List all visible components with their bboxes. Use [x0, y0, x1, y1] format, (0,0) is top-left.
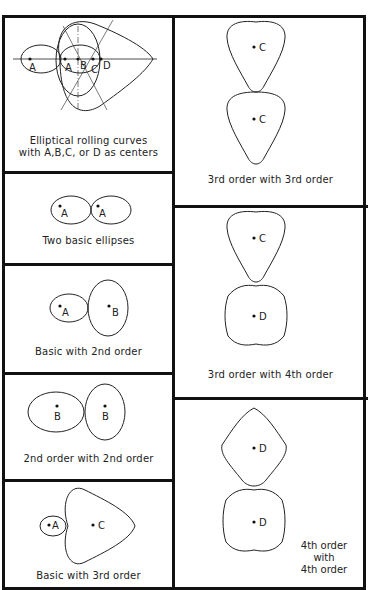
panel-4th-4th: D D 4th order with 4th order — [176, 400, 365, 586]
point-label: C — [259, 114, 266, 125]
two-basic-drawing: A A — [5, 174, 172, 263]
point-label: A — [52, 520, 59, 531]
point-label: B — [102, 411, 109, 422]
point-label: D — [259, 311, 267, 322]
point-label: C — [259, 233, 266, 244]
point-label: C — [259, 42, 266, 53]
point-label: D — [259, 443, 267, 454]
point-label: B — [80, 60, 87, 71]
caption-line: 4th order — [294, 564, 354, 576]
caption: Basic with 3rd order — [5, 570, 172, 582]
panel-basic-2nd: A B Basic with 2nd order — [5, 266, 172, 372]
caption: Two basic ellipses — [5, 235, 172, 247]
point-label: C — [91, 64, 98, 75]
caption-line: 4th order — [294, 540, 354, 552]
point-label: A — [61, 208, 68, 219]
point-label: A — [62, 307, 69, 318]
caption: 2nd order with 2nd order — [5, 453, 172, 465]
caption-line: with A,B,C, or D as centers — [5, 147, 172, 159]
point-label: D — [259, 517, 267, 528]
panel-2nd-2nd: B B 2nd order with 2nd order — [5, 375, 172, 479]
panel-two-basic: A A Two basic ellipses — [5, 174, 172, 263]
panel-basic-3rd: A C Basic with 3rd order — [5, 482, 172, 586]
panel-3rd-3rd: C C 3rd order with 3rd order — [176, 18, 365, 205]
panel-3rd-4th: C D 3rd order with 4th order — [176, 208, 365, 397]
point-label: A — [65, 62, 72, 73]
point-label: A — [99, 208, 106, 219]
caption-line: with — [294, 552, 354, 564]
caption: Basic with 2nd order — [5, 346, 172, 358]
caption: 3rd order with 3rd order — [176, 174, 365, 186]
point-label: B — [54, 411, 61, 422]
point-label: B — [112, 307, 119, 318]
caption: 3rd order with 4th order — [176, 369, 365, 381]
caption: 4th order with 4th order — [294, 540, 354, 576]
point-label: C — [98, 520, 105, 531]
caption: Elliptical rolling curves with A,B,C, or… — [5, 135, 172, 159]
point-label: A — [29, 62, 36, 73]
point-label: D — [103, 60, 111, 71]
column-divider — [172, 15, 175, 590]
panel-rolling-curves: A A B C D Elliptical rolling curves with… — [5, 18, 172, 171]
caption-line: Elliptical rolling curves — [5, 135, 172, 147]
